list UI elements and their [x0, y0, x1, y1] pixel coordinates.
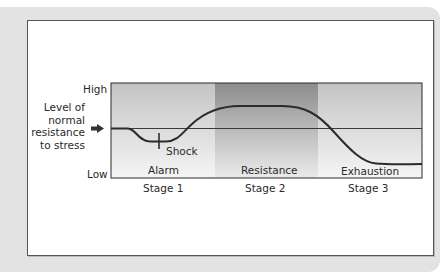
stage-2-name: Resistance: [241, 164, 298, 176]
y-axis-high-label: High: [83, 83, 107, 95]
label-line-1: Level of: [10, 101, 85, 114]
normal-resistance-label: Level of normal resistance to stress: [10, 101, 85, 151]
stage-1-name: Alarm: [148, 164, 179, 176]
stage-1-label: Stage 1: [143, 182, 183, 194]
y-axis-low-label: Low: [87, 168, 108, 180]
stage-2-label: Stage 2: [245, 182, 285, 194]
label-line-4: to stress: [10, 139, 85, 152]
shock-label: Shock: [166, 145, 198, 157]
label-line-2: normal: [10, 114, 85, 127]
label-line-3: resistance: [10, 126, 85, 139]
stage-3-name: Exhaustion: [341, 165, 399, 177]
stage-3-label: Stage 3: [348, 182, 388, 194]
arrow-right-icon: [91, 124, 104, 133]
